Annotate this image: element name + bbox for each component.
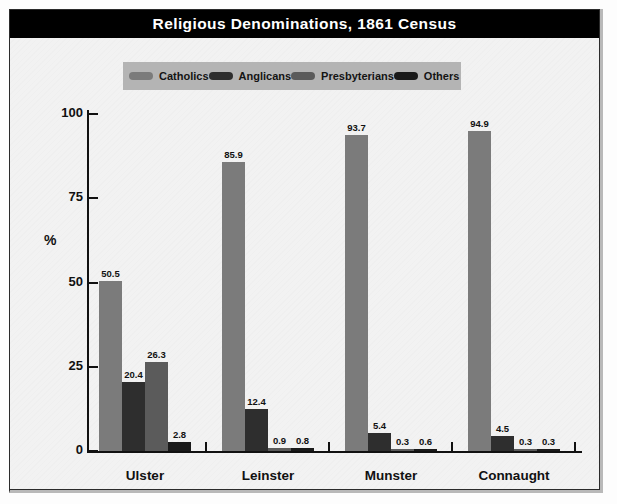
y-axis-tick-label: 50 — [39, 274, 83, 289]
bar-munster-others[interactable] — [414, 449, 437, 451]
legend-item-label: Presbyterians — [321, 70, 394, 82]
legend-item-presbyterians[interactable]: Presbyterians — [291, 70, 394, 82]
bar-value-label: 0.8 — [296, 435, 309, 446]
bar-value-label: 20.4 — [124, 369, 143, 380]
bar-value-label: 94.9 — [470, 118, 489, 129]
bar-connaught-anglicans[interactable] — [491, 436, 514, 451]
bar-ulster-anglicans[interactable] — [122, 382, 145, 451]
bar-connaught-presbyterians[interactable] — [514, 449, 537, 451]
x-axis-category-label: Munster — [365, 468, 418, 483]
bar-value-label: 0.3 — [542, 436, 555, 447]
bar-value-label: 85.9 — [224, 149, 243, 160]
y-axis-tick — [89, 197, 98, 199]
bar-leinster-catholics[interactable] — [222, 162, 245, 451]
bar-value-label: 50.5 — [101, 268, 120, 279]
bar-value-label: 0.9 — [273, 435, 286, 446]
y-axis-tick-label: 75 — [39, 189, 83, 204]
y-axis-tick — [89, 282, 98, 284]
legend-item-others[interactable]: Others — [394, 70, 459, 82]
bar-ulster-others[interactable] — [168, 442, 191, 451]
x-axis-tick — [205, 442, 207, 451]
bar-value-label: 0.3 — [396, 436, 409, 447]
x-axis-tick — [328, 442, 330, 451]
y-axis-tick — [89, 366, 98, 368]
y-axis-tick-label: 25 — [39, 358, 83, 373]
bar-munster-presbyterians[interactable] — [391, 449, 414, 451]
bar-munster-anglicans[interactable] — [368, 433, 391, 451]
bar-connaught-catholics[interactable] — [468, 131, 491, 451]
x-axis-category-label: Connaught — [478, 468, 549, 483]
x-axis-category-label: Leinster — [242, 468, 295, 483]
legend-item-catholics[interactable]: Catholics — [129, 70, 209, 82]
page-title: Religious Denominations, 1861 Census — [153, 15, 457, 33]
bar-munster-catholics[interactable] — [345, 135, 368, 451]
bar-value-label: 4.5 — [496, 423, 509, 434]
y-axis-tick — [89, 450, 98, 452]
x-axis-tick — [574, 442, 576, 451]
chart-figure: Religious Denominations, 1861 Census Cat… — [0, 0, 617, 504]
bar-leinster-others[interactable] — [291, 448, 314, 451]
bar-leinster-presbyterians[interactable] — [268, 448, 291, 451]
bar-leinster-anglicans[interactable] — [245, 409, 268, 451]
bar-connaught-others[interactable] — [537, 449, 560, 451]
y-axis-title: % — [44, 232, 56, 248]
bar-ulster-catholics[interactable] — [99, 281, 122, 451]
y-axis-tick-label: 100 — [39, 105, 83, 120]
x-axis-tick — [451, 442, 453, 451]
chart-title-bar: Religious Denominations, 1861 Census — [10, 10, 599, 38]
bar-ulster-presbyterians[interactable] — [145, 362, 168, 451]
bar-value-label: 0.6 — [419, 436, 432, 447]
y-axis-tick-label: 0 — [39, 442, 83, 457]
legend-item-label: Others — [424, 70, 459, 82]
legend-swatch-icon — [209, 72, 233, 80]
bar-value-label: 12.4 — [247, 396, 266, 407]
bar-value-label: 0.3 — [519, 436, 532, 447]
bar-value-label: 93.7 — [347, 122, 366, 133]
x-axis-category-label: Ulster — [126, 468, 164, 483]
legend-item-anglicans[interactable]: Anglicans — [209, 70, 292, 82]
legend-item-label: Catholics — [159, 70, 209, 82]
y-axis-tick — [89, 113, 98, 115]
plot-area: 025507510050.520.426.32.8Ulster85.912.40… — [87, 110, 582, 453]
bar-value-label: 2.8 — [173, 429, 186, 440]
chart-legend: CatholicsAnglicansPresbyteriansOthers — [123, 62, 461, 90]
bar-value-label: 5.4 — [373, 420, 386, 431]
x-axis-line — [87, 451, 582, 453]
legend-swatch-icon — [129, 72, 153, 80]
legend-swatch-icon — [394, 72, 418, 80]
legend-item-label: Anglicans — [239, 70, 292, 82]
bar-value-label: 26.3 — [147, 349, 166, 360]
legend-swatch-icon — [291, 72, 315, 80]
